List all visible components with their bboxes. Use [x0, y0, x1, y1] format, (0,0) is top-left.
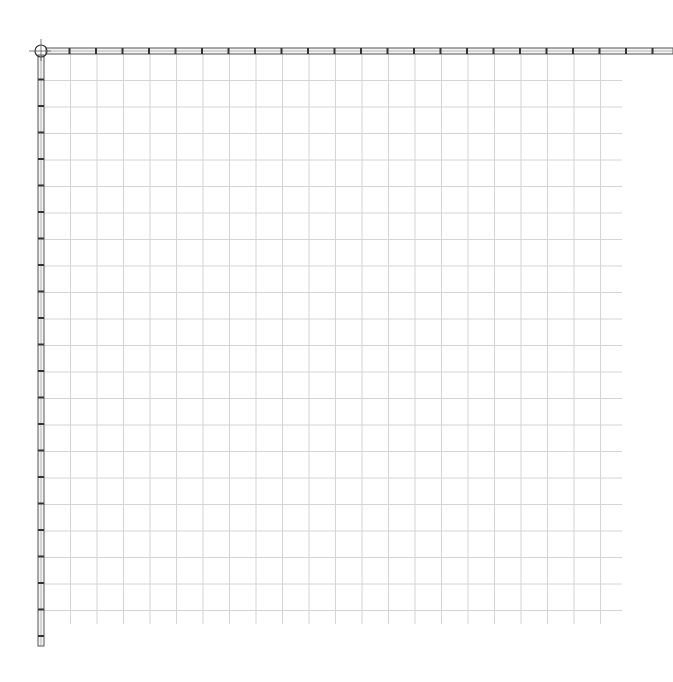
- top-ruler[interactable]: [46, 48, 673, 54]
- drawing-canvas[interactable]: [0, 0, 673, 682]
- left-ruler[interactable]: [38, 55, 44, 646]
- grid-lines: [44, 54, 622, 624]
